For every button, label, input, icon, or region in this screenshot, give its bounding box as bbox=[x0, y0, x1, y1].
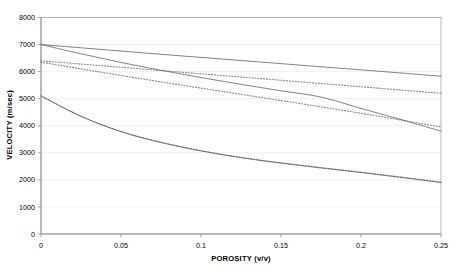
y-tick-label: 4000 bbox=[19, 121, 35, 130]
y-tick-label: 0 bbox=[31, 230, 35, 239]
x-tick-label: 0.25 bbox=[434, 241, 448, 250]
y-tick-label: 5000 bbox=[19, 94, 35, 103]
y-tick-label: 3000 bbox=[19, 148, 35, 157]
y-tick-label: 1000 bbox=[19, 203, 35, 212]
x-tick-label: 0 bbox=[39, 241, 43, 250]
velocity-porosity-line-chart: 010002000300040005000600070008000 00.050… bbox=[0, 0, 456, 271]
x-tick-label: 0.05 bbox=[114, 241, 128, 250]
y-tick-label: 8000 bbox=[19, 13, 35, 22]
chart-background bbox=[0, 0, 456, 271]
y-tick-label: 7000 bbox=[19, 40, 35, 49]
x-tick-label: 0.2 bbox=[356, 241, 366, 250]
x-tick-label: 0.15 bbox=[274, 241, 288, 250]
y-tick-label: 2000 bbox=[19, 175, 35, 184]
x-axis-title: POROSITY (v/v) bbox=[211, 254, 271, 263]
y-tick-label: 6000 bbox=[19, 67, 35, 76]
x-tick-label: 0.1 bbox=[196, 241, 206, 250]
y-axis-tick-labels: 010002000300040005000600070008000 bbox=[19, 13, 35, 239]
chart-figure: 010002000300040005000600070008000 00.050… bbox=[0, 0, 456, 271]
y-axis-title: VELOCITY (m/sec) bbox=[5, 90, 14, 160]
